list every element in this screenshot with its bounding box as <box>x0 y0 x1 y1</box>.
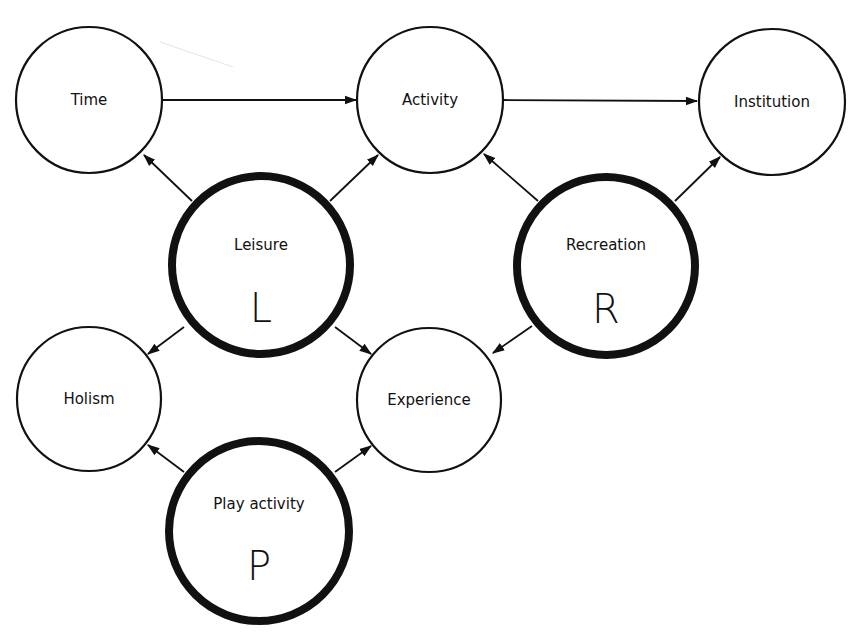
node-play-activity: Play activity P <box>169 441 349 621</box>
edge-activity-institution <box>503 100 697 101</box>
node-holism: Holism <box>17 327 161 471</box>
node-activity: Activity <box>357 27 503 173</box>
edge-recreation-institution <box>675 157 720 201</box>
node-letter: P <box>247 543 271 589</box>
edge-play-experience <box>335 446 371 472</box>
edge-recreation-experience <box>493 326 532 353</box>
node-label: Recreation <box>566 236 646 254</box>
node-label: Leisure <box>234 236 288 254</box>
node-leisure: Leisure L <box>172 176 350 354</box>
node-label: Experience <box>387 391 471 409</box>
node-experience: Experience <box>357 328 501 472</box>
node-institution: Institution <box>699 29 845 175</box>
node-label: Institution <box>734 93 810 111</box>
edge-leisure-experience <box>335 327 371 354</box>
node-time: Time <box>16 27 162 173</box>
node-label: Time <box>70 91 108 109</box>
node-label: Play activity <box>213 495 304 513</box>
edge-leisure-holism <box>148 327 184 354</box>
edge-leisure-activity <box>330 155 378 201</box>
node-letter: R <box>592 286 620 332</box>
edge-play-holism <box>148 445 184 472</box>
scan-artifact <box>160 42 233 67</box>
edge-leisure-time <box>144 155 192 201</box>
node-label: Activity <box>402 91 458 109</box>
node-recreation: Recreation R <box>517 177 695 355</box>
edge-recreation-activity <box>484 154 538 201</box>
concept-diagram: Time Activity Institution Holism Experie… <box>0 0 853 635</box>
node-label: Holism <box>63 390 114 408</box>
node-letter: L <box>250 285 272 331</box>
